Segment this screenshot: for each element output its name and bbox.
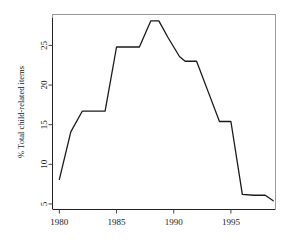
x-axis-ticks xyxy=(59,210,231,214)
x-tick-label: 1990 xyxy=(165,217,184,227)
y-tick-label: 25 xyxy=(39,40,49,50)
x-tick-label: 1995 xyxy=(222,217,241,227)
y-tick-label: 15 xyxy=(39,120,49,129)
plot-frame xyxy=(53,15,276,210)
y-tick-label: 5 xyxy=(39,201,49,206)
y-axis-tick-labels: 510152025 xyxy=(39,40,49,206)
chart-figure: 1980198519901995 510152025 % Total child… xyxy=(0,0,289,244)
y-axis-ticks xyxy=(49,45,53,204)
x-axis-tick-labels: 1980198519901995 xyxy=(50,217,240,227)
y-tick-label: 10 xyxy=(39,159,49,169)
x-tick-label: 1980 xyxy=(50,217,69,227)
y-tick-label: 20 xyxy=(39,80,49,90)
line-chart: 1980198519901995 510152025 % Total child… xyxy=(0,0,289,244)
x-tick-label: 1985 xyxy=(108,217,127,227)
data-series-line xyxy=(59,21,273,201)
y-axis-title: % Total child-related items xyxy=(16,66,26,158)
